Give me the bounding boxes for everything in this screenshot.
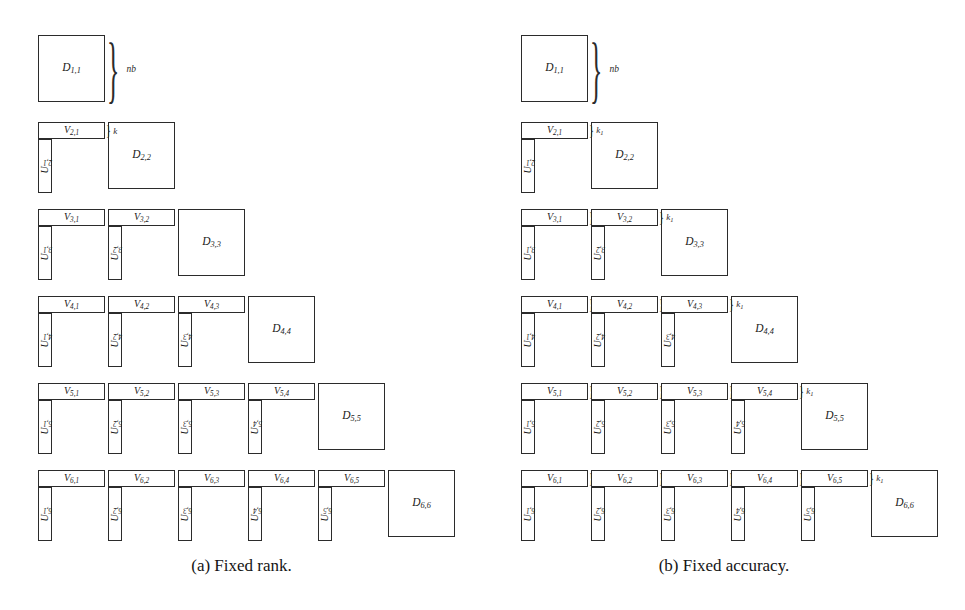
- u-block-5-1: U5,1: [38, 400, 52, 454]
- v-block-2-1: V2,1: [38, 122, 105, 139]
- block-label: U5,2: [108, 419, 121, 435]
- v-block-5-3: V5,3: [178, 383, 245, 400]
- v-block-3-2: V3,2: [591, 209, 658, 226]
- block-label: U6,2: [591, 506, 604, 522]
- block-label: U6,1: [38, 506, 51, 522]
- block-label: V6,5: [827, 472, 842, 485]
- block-label: U6,5: [801, 506, 814, 522]
- u-block-5-3: U5,3: [178, 400, 192, 454]
- diagonal-block-1-1: D1,1: [38, 35, 105, 102]
- block-label: V5,4: [274, 385, 289, 398]
- block-label: V6,1: [547, 472, 562, 485]
- block-label: U6,1: [521, 506, 534, 522]
- block-label: V6,3: [687, 472, 702, 485]
- block-matrix-figure: D1,1}nbD2,2V2,1U2,1}kD3,3V3,1U3,1V3,2U3,…: [0, 0, 965, 610]
- brace-glyph: }: [590, 35, 602, 101]
- u-block-6-4: U6,4: [248, 487, 262, 541]
- block-label: U6,3: [661, 506, 674, 522]
- v-block-4-2: V4,2: [591, 296, 658, 313]
- v-block-4-3: V4,3: [661, 296, 728, 313]
- block-label: V4,3: [687, 298, 702, 311]
- block-label: U4,2: [108, 332, 121, 348]
- block-label: V3,1: [547, 211, 562, 224]
- diagonal-block-3-3: D3,3: [178, 209, 245, 276]
- block-label: V5,2: [134, 385, 149, 398]
- block-label: V4,2: [134, 298, 149, 311]
- panel-fixed-rank: D1,1}nbD2,2V2,1U2,1}kD3,3V3,1U3,1V3,2U3,…: [0, 0, 483, 610]
- block-label: V2,1: [64, 124, 79, 137]
- block-label: V3,2: [134, 211, 149, 224]
- block-label: V5,1: [547, 385, 562, 398]
- diagonal-block-4-4: D4,4: [248, 296, 315, 363]
- v-block-6-1: V6,1: [521, 470, 588, 487]
- v-block-4-1: V4,1: [38, 296, 105, 313]
- v-block-3-1: V3,1: [521, 209, 588, 226]
- block-label: U5,3: [661, 419, 674, 435]
- block-label: V5,2: [617, 385, 632, 398]
- block-label: U6,5: [318, 506, 331, 522]
- block-label: U6,4: [248, 506, 261, 522]
- block-label: U6,2: [108, 506, 121, 522]
- block-label: U5,4: [731, 419, 744, 435]
- block-label: V4,1: [547, 298, 562, 311]
- block-label: U6,4: [731, 506, 744, 522]
- u-block-6-3: U6,3: [178, 487, 192, 541]
- block-label: U4,1: [521, 332, 534, 348]
- block-label: U2,1: [38, 158, 51, 174]
- block-label: V6,2: [617, 472, 632, 485]
- block-label: D6,6: [895, 496, 914, 510]
- block-label: V4,3: [204, 298, 219, 311]
- block-label: U4,2: [591, 332, 604, 348]
- v-block-4-1: V4,1: [521, 296, 588, 313]
- block-label: V6,3: [204, 472, 219, 485]
- block-label: D4,4: [272, 322, 291, 336]
- brace-label: nb: [609, 64, 619, 74]
- v-block-6-3: V6,3: [661, 470, 728, 487]
- diagonal-block-6-6: D6,6: [871, 470, 938, 537]
- block-label: V5,4: [757, 385, 772, 398]
- u-block-3-1: U3,1: [38, 226, 52, 280]
- block-label: V6,2: [134, 472, 149, 485]
- u-block-5-4: U5,4: [248, 400, 262, 454]
- u-block-4-2: U4,2: [591, 313, 605, 367]
- v-block-6-1: V6,1: [38, 470, 105, 487]
- block-label: U6,3: [178, 506, 191, 522]
- block-label: V5,3: [204, 385, 219, 398]
- u-block-3-2: U3,2: [108, 226, 122, 280]
- block-label: U3,2: [108, 245, 121, 261]
- u-block-4-2: U4,2: [108, 313, 122, 367]
- u-block-4-1: U4,1: [521, 313, 535, 367]
- block-label: U5,2: [591, 419, 604, 435]
- v-block-5-1: V5,1: [38, 383, 105, 400]
- block-label: V5,3: [687, 385, 702, 398]
- block-label: V6,5: [344, 472, 359, 485]
- diagonal-block-5-5: D5,5: [801, 383, 868, 450]
- v-block-6-5: V6,5: [318, 470, 385, 487]
- block-label: D4,4: [755, 322, 774, 336]
- panel-fixed-accuracy: D1,1}nbD2,2V2,1U2,1}k1D3,3V3,1U3,1}k2V3,…: [483, 0, 965, 610]
- u-block-6-5: U6,5: [318, 487, 332, 541]
- v-block-6-3: V6,3: [178, 470, 245, 487]
- v-block-6-2: V6,2: [591, 470, 658, 487]
- brace-glyph: }: [107, 35, 119, 101]
- v-block-2-1: V2,1: [521, 122, 588, 139]
- block-label: D2,2: [615, 148, 634, 162]
- block-label: D1,1: [62, 61, 81, 75]
- diagonal-block-6-6: D6,6: [388, 470, 455, 537]
- block-label: U3,1: [38, 245, 51, 261]
- block-label: U4,3: [661, 332, 674, 348]
- block-label: D2,2: [132, 148, 151, 162]
- u-block-6-5: U6,5: [801, 487, 815, 541]
- v-block-6-4: V6,4: [248, 470, 315, 487]
- block-label: U5,3: [178, 419, 191, 435]
- u-block-5-3: U5,3: [661, 400, 675, 454]
- u-block-2-1: U2,1: [521, 139, 535, 193]
- v-block-5-2: V5,2: [108, 383, 175, 400]
- u-block-6-1: U6,1: [38, 487, 52, 541]
- block-label: D5,5: [342, 409, 361, 423]
- block-label: D1,1: [545, 61, 564, 75]
- block-label: D5,5: [825, 409, 844, 423]
- block-label: U3,2: [591, 245, 604, 261]
- diagonal-block-5-5: D5,5: [318, 383, 385, 450]
- u-block-5-1: U5,1: [521, 400, 535, 454]
